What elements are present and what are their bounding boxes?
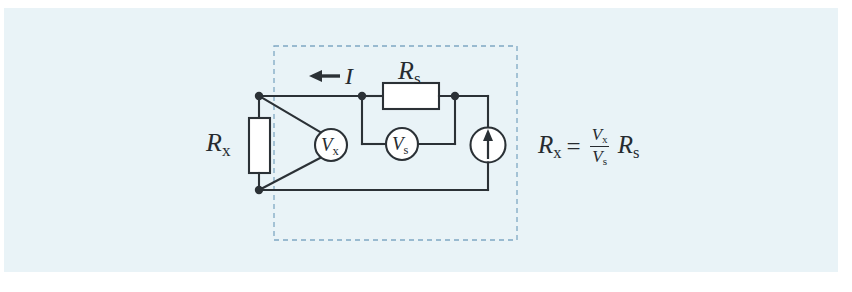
current-direction-arrow xyxy=(309,70,340,82)
node-dot-top-left xyxy=(255,92,263,100)
circuit-schematic xyxy=(0,0,852,292)
equation-equals-sign: = xyxy=(567,134,581,159)
equation-rhs: Rs xyxy=(618,132,640,161)
node-dot-rs-right xyxy=(451,92,459,100)
voltmeter-vs-label: Vs xyxy=(392,134,409,156)
equation-numerator: Vx xyxy=(590,126,610,146)
node-dot-bottom-left xyxy=(255,186,263,194)
resistor-rx-label: Rx xyxy=(206,130,230,159)
equation-lhs: Rx xyxy=(538,132,562,161)
result-equation: Rx = Vx Vs Rs xyxy=(538,126,639,168)
equation-denominator: Vs xyxy=(590,146,609,167)
resistor-rx-body xyxy=(249,118,270,173)
equation-fraction: Vx Vs xyxy=(590,126,610,168)
resistor-rs-label: Rs xyxy=(398,58,421,87)
current-arrow-label: I xyxy=(345,64,353,88)
figure-page: Rx Rs I Vx Vs Rx = Vx Vs Rs xyxy=(0,0,852,292)
node-dot-rs-left xyxy=(358,92,366,100)
voltmeter-vx-label: Vx xyxy=(321,135,339,157)
